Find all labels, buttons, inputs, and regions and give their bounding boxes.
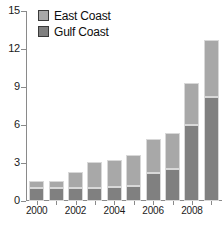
bar-segment-east-coast (146, 139, 161, 173)
bar-2005 (126, 155, 141, 201)
y-tick (21, 49, 26, 50)
legend-label-east-coast: East Coast (54, 10, 111, 22)
y-tick (21, 201, 26, 202)
bar-2000 (29, 181, 44, 201)
bar-segment-east-coast (68, 172, 83, 188)
y-tick-label: 6 (0, 119, 20, 130)
bar-segment-east-coast (184, 83, 199, 125)
bar-2008 (184, 83, 199, 201)
bar-segment-east-coast (165, 133, 180, 170)
caption-fragment (18, 220, 218, 225)
bar-2004 (107, 160, 122, 201)
chart-legend: East Coast Gulf Coast (38, 8, 111, 40)
x-tick (173, 201, 174, 205)
y-tick-label: 3 (0, 157, 20, 168)
x-tick (56, 201, 57, 205)
x-tick-label: 2006 (136, 206, 170, 216)
bar-segment-east-coast (49, 181, 64, 189)
bar-segment-east-coast (87, 162, 102, 189)
x-tick (134, 201, 135, 205)
bar-segment-gulf-coast (29, 188, 44, 201)
bar-segment-gulf-coast (165, 169, 180, 201)
bar-segment-east-coast (107, 160, 122, 187)
x-tick (211, 201, 212, 205)
y-tick-label: 15 (0, 5, 20, 16)
bar-2001 (49, 181, 64, 201)
x-tick-label: 2002 (59, 206, 93, 216)
bar-2007 (165, 133, 180, 201)
bar-segment-east-coast (204, 40, 219, 97)
bar-segment-gulf-coast (68, 188, 83, 201)
bar-segment-gulf-coast (49, 188, 64, 201)
bar-segment-gulf-coast (204, 97, 219, 201)
y-tick-label: 9 (0, 81, 20, 92)
legend-item-east-coast: East Coast (38, 8, 111, 23)
bar-segment-east-coast (29, 181, 44, 189)
bar-2002 (68, 172, 83, 201)
bar-segment-gulf-coast (107, 187, 122, 201)
bar-2003 (87, 162, 102, 201)
y-tick (21, 163, 26, 164)
y-tick (21, 87, 26, 88)
bar-segment-gulf-coast (184, 125, 199, 201)
bar-segment-gulf-coast (126, 186, 141, 201)
y-tick (21, 11, 26, 12)
x-tick-label: 2000 (20, 206, 54, 216)
bar-segment-gulf-coast (146, 173, 161, 201)
x-tick-label: 2004 (97, 206, 131, 216)
legend-swatch-east-coast (38, 10, 49, 21)
y-tick-label: 12 (0, 43, 20, 54)
bar-2006 (146, 139, 161, 201)
bar-chart: 03691215 20002002200420062008 East Coast… (0, 0, 224, 226)
legend-swatch-gulf-coast (38, 26, 49, 37)
legend-item-gulf-coast: Gulf Coast (38, 24, 111, 39)
bar-segment-east-coast (126, 155, 141, 185)
legend-label-gulf-coast: Gulf Coast (54, 26, 109, 38)
y-tick-label: 0 (0, 195, 20, 206)
x-tick (95, 201, 96, 205)
bar-segment-gulf-coast (87, 188, 102, 201)
bar-2009 (204, 40, 219, 201)
x-tick-label: 2008 (175, 206, 209, 216)
y-tick (21, 125, 26, 126)
